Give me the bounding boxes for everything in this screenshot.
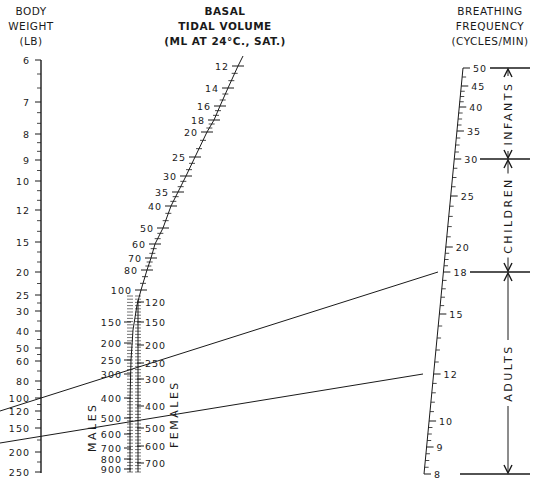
- weight-tick-label: 60: [16, 356, 30, 367]
- infants-range: INFANTS: [502, 69, 515, 158]
- children-range: CHILDREN: [502, 160, 515, 271]
- weight-tick-label: 10: [16, 176, 30, 187]
- female-tick-label: 200: [145, 340, 166, 351]
- example-line-1: [0, 272, 438, 411]
- frequency-tick-label: 50: [473, 63, 487, 74]
- male-tick-label: 900: [101, 464, 122, 475]
- tidal-tick-label: 12: [215, 61, 229, 72]
- example-line-2: [0, 374, 423, 443]
- adults-range: ADULTS: [502, 273, 515, 473]
- tidal-tick-label: 60: [132, 239, 146, 250]
- female-tick-label: 600: [145, 441, 166, 452]
- tidal-tick-label: 50: [140, 223, 154, 234]
- weight-tick-label: 50: [16, 343, 30, 354]
- weight-tick-label: 200: [9, 447, 30, 458]
- female-tick-label: 700: [145, 458, 166, 469]
- tidal-tick-label: 25: [172, 152, 186, 163]
- frequency-tick-label: 18: [453, 267, 467, 278]
- weight-tick-label: 9: [23, 155, 30, 166]
- tidal-tick-label: 70: [128, 253, 142, 264]
- male-tick-label: 200: [101, 338, 122, 349]
- body-weight-axis: 678910121520253040506080100120150200250: [9, 55, 41, 478]
- weight-tick-label: 8: [23, 129, 30, 140]
- tidal-tick-label: 100: [111, 285, 132, 296]
- frequency-tick-label: 15: [449, 309, 463, 320]
- weight-tick-label: 40: [16, 326, 30, 337]
- weight-tick-label: 15: [16, 237, 30, 248]
- weight-tick-label: 250: [9, 467, 30, 478]
- weight-tick-label: 25: [16, 290, 30, 301]
- female-tick-label: 400: [145, 401, 166, 412]
- frequency-tick-label: 9: [437, 442, 444, 453]
- frequency-tick-label: 45: [471, 81, 485, 92]
- tidal-tick-label: 20: [184, 127, 198, 138]
- frequency-tick-label: 20: [456, 242, 470, 253]
- breathing-frequency-axis: 504540353025201815121098: [424, 63, 487, 480]
- tidal-tick-label: 40: [148, 201, 162, 212]
- frequency-tick-label: 8: [434, 469, 441, 480]
- frequency-tick-label: 10: [439, 416, 453, 427]
- tidal-tick-label: 80: [124, 265, 138, 276]
- male-tick-label: 500: [101, 413, 122, 424]
- males-label: MALES: [86, 402, 99, 452]
- frequency-tick-label: 12: [444, 369, 458, 380]
- nomogram-plot: 678910121520253040506080100120150200250 …: [0, 0, 537, 485]
- weight-tick-label: 7: [23, 97, 30, 108]
- weight-tick-label: 150: [9, 423, 30, 434]
- female-tick-label: 120: [145, 297, 166, 308]
- female-tick-label: 150: [145, 317, 166, 328]
- tidal-tick-label: 30: [163, 171, 177, 182]
- weight-tick-label: 100: [9, 393, 30, 404]
- frequency-tick-label: 25: [461, 191, 475, 202]
- tidal-tick-label: 18: [191, 115, 205, 126]
- frequency-tick-label: 40: [469, 102, 483, 113]
- tidal-tick-label: 16: [197, 101, 211, 112]
- adults-range-label: ADULTS: [502, 344, 515, 401]
- frequency-tick-label: 35: [467, 126, 481, 137]
- females-label: FEMALES: [168, 380, 181, 448]
- male-tick-label: 400: [101, 393, 122, 404]
- weight-tick-label: 20: [16, 267, 30, 278]
- weight-tick-label: 80: [16, 376, 30, 387]
- weight-tick-label: 12: [16, 205, 30, 216]
- male-tick-label: 150: [101, 317, 122, 328]
- female-tick-label: 300: [145, 374, 166, 385]
- male-tick-label: 600: [101, 429, 122, 440]
- frequency-tick-label: 30: [464, 154, 478, 165]
- male-tick-label: 250: [101, 355, 122, 366]
- weight-tick-label: 30: [16, 306, 30, 317]
- male-tick-label: 700: [101, 443, 122, 454]
- weight-tick-label: 6: [23, 55, 30, 66]
- tidal-tick-label: 14: [205, 83, 219, 94]
- children-range-label: CHILDREN: [502, 177, 515, 254]
- tidal-tick-label: 35: [155, 187, 169, 198]
- infants-range-label: INFANTS: [502, 82, 515, 146]
- example-lines: [0, 272, 438, 443]
- female-tick-label: 500: [145, 423, 166, 434]
